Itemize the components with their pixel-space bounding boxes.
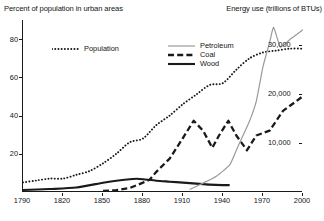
x-tick-label: 1970 [247, 196, 277, 205]
x-tick-label: 1940 [207, 196, 237, 205]
x-tick-mark [302, 193, 303, 196]
legend-swatch-bold-dashed [168, 51, 195, 59]
legend-swatch-dotted [52, 45, 79, 53]
y-right-tick-label: 30,000 [268, 40, 291, 49]
y-right-tick-mark [299, 143, 302, 144]
legend-swatch-bold-solid [168, 60, 195, 68]
y-left-tick-mark [19, 39, 22, 40]
x-tick-mark [62, 193, 63, 196]
chart-figure: Percent of population in urban areas Ene… [0, 0, 324, 221]
x-tick-label: 1850 [87, 196, 117, 205]
x-tick-mark [222, 193, 223, 196]
y-left-tick-mark [19, 154, 22, 155]
x-tick-mark [182, 193, 183, 196]
left-axis-title: Percent of population in urban areas [4, 4, 123, 13]
x-tick-mark [102, 193, 103, 196]
legend-line-icon [168, 51, 195, 59]
y-left-tick-mark [19, 77, 22, 78]
y-left-tick-label: 40 [2, 111, 18, 120]
legend-item-wood[interactable]: Wood [168, 59, 234, 68]
legend-swatch-thin-solid [168, 42, 195, 50]
legend-line-icon [52, 45, 79, 53]
x-tick-mark [262, 193, 263, 196]
x-tick-label: 1880 [127, 196, 157, 205]
series-line-population [23, 49, 303, 183]
y-left-tick-label: 80 [2, 35, 18, 44]
y-right-tick-label: 20,000 [268, 89, 291, 98]
x-tick-label: 2000 [287, 196, 317, 205]
legend-item-label: Coal [200, 50, 215, 59]
y-right-tick-label: 10,000 [268, 138, 291, 147]
x-tick-label: 1790 [7, 196, 37, 205]
y-left-tick-label: 20 [2, 149, 18, 158]
y-right-tick-mark [299, 94, 302, 95]
x-tick-label: 1910 [167, 196, 197, 205]
legend-item-label: Wood [200, 59, 219, 68]
legend-item-coal[interactable]: Coal [168, 50, 234, 59]
x-tick-label: 1820 [47, 196, 77, 205]
legend-item-population[interactable]: Population [52, 44, 119, 53]
x-tick-mark [142, 193, 143, 196]
legend-line-icon [168, 60, 195, 68]
legend-population: Population [52, 44, 119, 53]
y-left-tick-mark [19, 116, 22, 117]
y-left-tick-label: 60 [2, 73, 18, 82]
right-axis-title: Energy use (trillions of BTUs) [226, 4, 322, 13]
legend-item-label: Petroleum [200, 41, 234, 50]
legend-energy: PetroleumCoalWood [168, 41, 234, 68]
legend-item-petroleum[interactable]: Petroleum [168, 41, 234, 50]
legend-item-label: Population [84, 44, 119, 53]
y-right-tick-mark [299, 45, 302, 46]
legend-line-icon [168, 42, 195, 50]
